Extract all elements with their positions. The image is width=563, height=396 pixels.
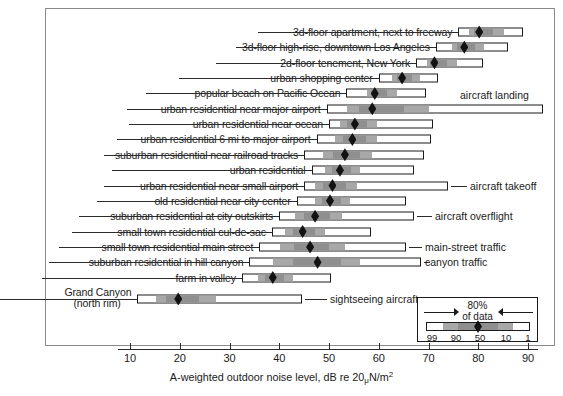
legend-arrow-right-line xyxy=(502,312,533,313)
x-tick-label-30: 30 xyxy=(223,352,235,364)
x-tick-90 xyxy=(528,343,529,350)
x-tick-label-90: 90 xyxy=(522,352,534,364)
x-tick-30 xyxy=(230,343,231,350)
legend-sample-bar xyxy=(426,322,530,331)
x-tick-10 xyxy=(130,343,131,350)
chart-row: urban residential 6 mi to major airport xyxy=(0,131,563,147)
percentile-bar xyxy=(317,135,431,144)
chart-row: suburban residential near railroad track… xyxy=(0,147,563,163)
legend-number-10: 10 xyxy=(501,332,512,343)
median-marker xyxy=(430,56,438,69)
percentile-bar xyxy=(327,104,543,113)
x-tick-60 xyxy=(379,343,380,350)
chart-row: urban residential near major airport xyxy=(0,101,563,117)
x-axis-title-unit: N/m xyxy=(369,371,389,383)
percentile-bar xyxy=(304,150,423,159)
x-tick-label-20: 20 xyxy=(174,352,186,364)
percentile-bar xyxy=(346,89,426,98)
row-leader-line xyxy=(49,262,249,263)
median-marker xyxy=(475,26,483,39)
x-tick-20 xyxy=(180,343,181,350)
legend-box: 80% of data 99 90 50 10 1 xyxy=(417,297,538,342)
row-leader-line xyxy=(179,78,379,79)
x-tick-40 xyxy=(279,343,280,350)
chart-row: urban residential xyxy=(0,162,563,178)
percentile-bar xyxy=(312,166,414,175)
median-marker xyxy=(328,179,336,192)
percentile-bar xyxy=(436,43,508,52)
percentile-bar xyxy=(379,74,439,83)
percentile-bar xyxy=(329,120,433,129)
legend-number-90: 90 xyxy=(451,332,462,343)
legend-arrow-left-line xyxy=(424,312,455,313)
row-leader-line xyxy=(258,32,458,33)
legend-number-99: 99 xyxy=(427,332,438,343)
legend-arrows xyxy=(424,307,533,317)
row-leader-line xyxy=(216,63,416,64)
percentile-bar xyxy=(272,227,372,236)
row-label: Grand Canyon(north rim) xyxy=(64,287,131,309)
x-axis-line xyxy=(118,349,538,350)
chart-row: small town residential main street xyxy=(0,239,563,255)
row-leader-line xyxy=(236,47,436,48)
chart-row: farm in valley xyxy=(0,270,563,286)
percentile-bar xyxy=(137,294,301,303)
x-tick-label-10: 10 xyxy=(124,352,136,364)
median-marker xyxy=(371,87,379,100)
x-tick-label-50: 50 xyxy=(323,352,335,364)
band-inner xyxy=(166,295,199,302)
chart-row: old residential near city center xyxy=(0,193,563,209)
chart-row: 3d-floor apartment, next to freeway xyxy=(0,24,563,40)
row-leader-line xyxy=(117,139,317,140)
legend-arrow-left-head xyxy=(454,308,459,316)
x-tick-label-60: 60 xyxy=(373,352,385,364)
median-marker xyxy=(299,225,307,238)
x-axis-title: A-weighted outdoor noise level, dB re 20… xyxy=(0,370,563,385)
median-marker xyxy=(174,292,182,305)
percentile-bar xyxy=(458,28,523,37)
row-leader-line xyxy=(97,201,297,202)
x-tick-label-80: 80 xyxy=(472,352,484,364)
median-marker xyxy=(336,164,344,177)
percentile-bar xyxy=(279,212,413,221)
median-marker xyxy=(326,194,334,207)
percentile-bar xyxy=(304,181,448,190)
row-leader-line xyxy=(104,155,304,156)
median-marker xyxy=(314,256,322,269)
percentile-bar xyxy=(416,58,483,67)
median-marker xyxy=(311,210,319,223)
x-axis-title-exp: 2 xyxy=(389,370,393,379)
row-leader-line xyxy=(72,232,272,233)
percentile-bar xyxy=(249,258,421,267)
percentile-bar xyxy=(242,273,332,282)
percentile-bar xyxy=(297,196,406,205)
x-tick-50 xyxy=(329,343,330,350)
row-leader-line xyxy=(104,186,304,187)
median-marker xyxy=(306,240,314,253)
percentile-bar xyxy=(259,242,406,251)
x-tick-label-70: 70 xyxy=(422,352,434,364)
chart-row: suburban residential in hill canyon xyxy=(0,254,563,270)
median-marker xyxy=(351,118,359,131)
median-marker xyxy=(341,148,349,161)
chart-row: suburban residential at city outskirts xyxy=(0,208,563,224)
noise-level-chart: 3d-floor apartment, next to freeway3d-fl… xyxy=(0,0,563,396)
row-leader-line xyxy=(0,299,137,300)
median-marker xyxy=(368,102,376,115)
band-inner xyxy=(359,105,404,112)
median-marker xyxy=(460,41,468,54)
legend-arrow-right-head xyxy=(498,308,503,316)
median-marker xyxy=(348,133,356,146)
median-marker xyxy=(398,72,406,85)
x-tick-70 xyxy=(429,343,430,350)
row-leader-line xyxy=(42,278,242,279)
legend-number-1: 1 xyxy=(525,332,530,343)
row-leader-line xyxy=(127,109,327,110)
chart-row: urban residential near ocean xyxy=(0,116,563,132)
legend-number-50: 50 xyxy=(475,332,486,343)
chart-row: small town residential cul-de-sac xyxy=(0,224,563,240)
row-annotation: aircraft landing xyxy=(460,89,529,101)
row-leader-line xyxy=(129,124,329,125)
chart-row: 2d-floor tenement, New York xyxy=(0,55,563,71)
row-leader-line xyxy=(112,170,312,171)
